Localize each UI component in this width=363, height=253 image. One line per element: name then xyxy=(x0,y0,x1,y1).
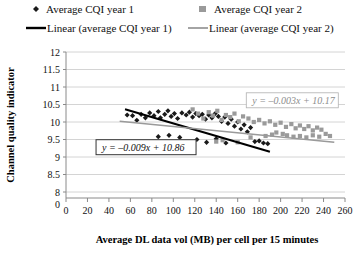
data-point-square xyxy=(207,110,211,114)
legend-entry-linear-year-1: Linear (average CQI year 1) xyxy=(26,22,172,35)
y-axis-tick-label: 10 xyxy=(50,117,60,128)
data-point-square xyxy=(215,109,219,113)
equation-year2-text: y = –0.003x + 10.17 xyxy=(251,95,335,106)
equation-year2: y = –0.003x + 10.17 xyxy=(246,93,338,108)
data-point-diamond xyxy=(162,112,167,117)
data-point-square xyxy=(289,122,293,126)
x-axis-title: Average DL data vol (MB) per cell per 15… xyxy=(96,234,319,246)
equation-year1-text: y = –0.009x + 10.86 xyxy=(101,142,184,153)
data-point-square xyxy=(284,125,288,129)
data-point-diamond xyxy=(232,124,237,129)
data-point-square xyxy=(237,119,241,123)
x-axis-tick-label: 20 xyxy=(82,205,92,216)
data-point-diamond xyxy=(130,113,135,118)
data-point-square xyxy=(319,128,323,132)
x-axis-tick-label: 160 xyxy=(230,205,245,216)
data-point-square xyxy=(241,114,245,118)
data-point-square xyxy=(262,121,266,125)
data-point-diamond xyxy=(179,110,184,115)
y-axis-tick-label: 8 xyxy=(55,187,60,198)
legend-entry-average-cqi-year-2: Average CQI year 2 xyxy=(199,3,302,15)
y-axis-tick-label: 11.5 xyxy=(43,64,60,75)
x-axis-tick-label: 100 xyxy=(166,205,181,216)
y-axis-tick-label: 12 xyxy=(50,47,60,58)
plot-area: 88.599.51010.51111.512002040608010012014… xyxy=(43,47,353,217)
data-point-diamond xyxy=(265,141,270,146)
legend-label-year2: Average CQI year 2 xyxy=(214,3,302,15)
data-point-square xyxy=(317,135,321,139)
data-point-square xyxy=(248,135,252,139)
data-point-square xyxy=(268,119,272,123)
data-point-diamond xyxy=(165,108,170,113)
data-point-square xyxy=(315,126,319,130)
x-axis-tick-label: 260 xyxy=(338,205,353,216)
square-marker-icon xyxy=(199,6,206,12)
data-point-diamond xyxy=(248,125,253,130)
data-point-square xyxy=(252,120,256,124)
data-point-square xyxy=(274,130,278,134)
data-point-diamond xyxy=(257,138,262,143)
data-point-square xyxy=(311,128,315,132)
data-point-square xyxy=(306,124,310,128)
data-point-diamond xyxy=(261,140,266,145)
data-point-square xyxy=(279,121,283,125)
data-point-square xyxy=(324,132,328,136)
data-point-square xyxy=(214,140,218,144)
legend-entry-average-cqi-year-1: Average CQI year 1 xyxy=(33,3,134,15)
x-axis-tick-label: 120 xyxy=(187,205,202,216)
x-axis-tick-label: 200 xyxy=(273,205,288,216)
data-point-diamond xyxy=(175,116,180,121)
data-point-square xyxy=(228,115,232,119)
y-axis-title: Channel quality indicator xyxy=(5,67,16,183)
data-point-diamond xyxy=(156,134,161,139)
y-axis-tick-label: 11 xyxy=(50,82,60,93)
data-point-diamond xyxy=(225,121,230,126)
legend-label-linear-year1: Linear (average CQI year 1) xyxy=(47,22,172,35)
legend-label-year1: Average CQI year 1 xyxy=(46,3,134,15)
data-point-square xyxy=(219,118,223,122)
data-point-square xyxy=(201,116,205,120)
x-axis-tick-label: 240 xyxy=(316,205,331,216)
data-point-square xyxy=(328,134,332,138)
data-point-square xyxy=(191,107,195,111)
y-axis-tick-label: 8.5 xyxy=(48,169,61,180)
data-point-square xyxy=(298,134,302,138)
x-axis-tick-label: 180 xyxy=(252,205,267,216)
x-axis-tick-label: 60 xyxy=(125,205,135,216)
data-point-diamond xyxy=(190,115,195,120)
data-point-square xyxy=(257,118,261,122)
data-point-diamond xyxy=(204,140,209,145)
data-point-square xyxy=(298,123,302,127)
x-axis-tick-label: 80 xyxy=(147,205,157,216)
data-point-diamond xyxy=(166,133,171,138)
data-point-square xyxy=(232,112,236,116)
cqi-vs-data-volume-scatter-chart: Average CQI year 1 Average CQI year 2 Li… xyxy=(0,0,363,253)
y-axis-tick-label: 9.5 xyxy=(48,134,61,145)
legend-entry-linear-year-2: Linear (average CQI year 2) xyxy=(188,22,334,35)
data-point-square xyxy=(311,133,315,137)
x-axis-tick-label: 140 xyxy=(209,205,224,216)
data-point-square xyxy=(273,123,277,127)
data-point-diamond xyxy=(242,122,247,127)
y-axis-tick-label: 9 xyxy=(55,152,60,163)
x-axis-tick-label: 0 xyxy=(64,205,69,216)
data-point-square xyxy=(294,126,298,130)
data-point-square xyxy=(211,114,215,118)
x-axis-tick-label: 40 xyxy=(104,205,114,216)
data-point-square xyxy=(302,127,306,131)
data-point-square xyxy=(196,112,200,116)
data-point-square xyxy=(246,116,250,120)
chart-container: Average CQI year 1 Average CQI year 2 Li… xyxy=(0,0,363,253)
y-axis-origin-label: 0 xyxy=(55,199,60,210)
equation-year1: y = –0.009x + 10.86 xyxy=(96,140,196,155)
data-point-diamond xyxy=(147,110,152,115)
chart-legend: Average CQI year 1 Average CQI year 2 Li… xyxy=(26,3,334,35)
data-point-square xyxy=(281,132,285,136)
data-point-diamond xyxy=(156,109,161,114)
data-point-diamond xyxy=(238,126,243,131)
x-axis-tick-label: 220 xyxy=(295,205,310,216)
data-point-square xyxy=(224,113,228,117)
diamond-marker-icon xyxy=(33,6,39,12)
y-axis-tick-label: 10.5 xyxy=(43,99,61,110)
legend-label-linear-year2: Linear (average CQI year 2) xyxy=(209,22,334,35)
